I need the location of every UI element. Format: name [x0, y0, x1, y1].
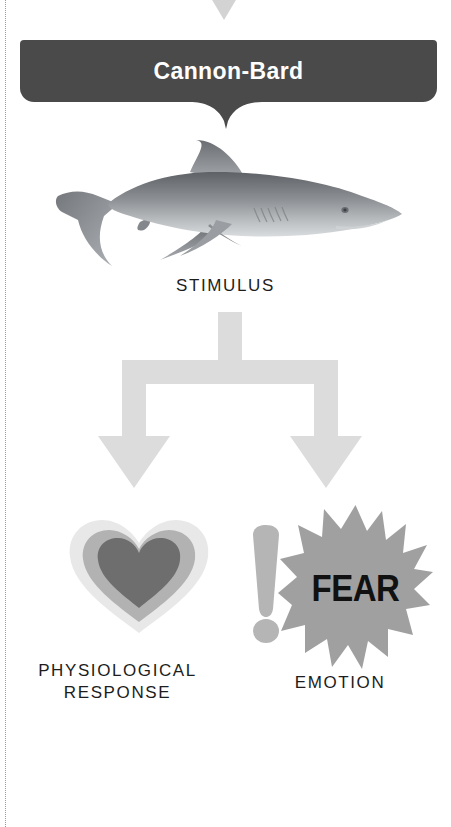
- dotted-cut-line: [5, 0, 6, 827]
- emotion-label: EMOTION: [240, 672, 440, 694]
- shark-image: [40, 128, 420, 273]
- fork-down-arrow-icon: [90, 312, 370, 494]
- banner: Cannon-Bard: [20, 40, 437, 102]
- down-triangle-icon: [205, 0, 243, 20]
- physiological-response-label: PHYSIOLOGICAL RESPONSE: [10, 660, 225, 704]
- physiological-response-label-line2: RESPONSE: [10, 682, 225, 704]
- heart-icon: [62, 512, 217, 637]
- banner-tail-icon: [190, 99, 262, 129]
- page-title: Cannon-Bard: [20, 40, 437, 102]
- physiological-response-label-line1: PHYSIOLOGICAL: [10, 660, 225, 682]
- stimulus-label: STIMULUS: [0, 275, 451, 297]
- cannon-bard-diagram-page: Cannon-Bard: [0, 0, 451, 827]
- fear-text: FEAR: [278, 495, 433, 683]
